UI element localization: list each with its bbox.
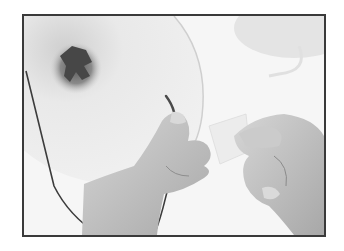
photo-frame xyxy=(22,14,326,237)
photo xyxy=(24,16,324,235)
